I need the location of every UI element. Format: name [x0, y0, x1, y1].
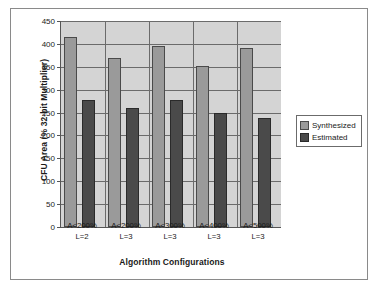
category-label-line1: A<200%: [67, 221, 97, 230]
bar-estimated[interactable]: [258, 118, 271, 227]
x-axis-category-label: A<400%L=3: [190, 220, 238, 242]
bar-estimated[interactable]: [82, 100, 95, 227]
category-label-line1: A<300%: [155, 221, 185, 230]
category-label-line1: A<200%: [111, 221, 141, 230]
y-axis-tick-label: 50: [46, 200, 55, 209]
x-axis-category-label: A<200%L=3: [102, 220, 150, 242]
bar-estimated[interactable]: [126, 108, 139, 227]
legend-item-estimated[interactable]: Estimated: [300, 131, 356, 143]
chart-figure: CFU Area (% 32-bit Multiplier) 450400350…: [10, 8, 368, 280]
category-label-line1: A<400%: [199, 221, 229, 230]
y-axis-tick-label: 450: [42, 17, 55, 26]
y-axis-tick-label: 250: [42, 108, 55, 117]
legend-swatch-icon: [300, 133, 309, 142]
bar-synthesized[interactable]: [240, 48, 253, 227]
y-axis-tick-label: 100: [42, 177, 55, 186]
category-label-line1: A<500%: [243, 221, 273, 230]
y-axis-tick-label: 400: [42, 39, 55, 48]
bar-synthesized[interactable]: [64, 37, 77, 227]
bar-synthesized[interactable]: [152, 46, 165, 227]
legend-swatch-icon: [300, 121, 309, 130]
bar-group: [149, 21, 193, 227]
y-axis-tick-label: 300: [42, 85, 55, 94]
y-axis-title: CFU Area (% 32-bit Multiplier): [39, 25, 49, 215]
bar-group: [105, 21, 149, 227]
x-axis-category-label: A<300%L=3: [146, 220, 194, 242]
category-label-line2: L=3: [146, 231, 194, 242]
bars-layer: [61, 21, 281, 227]
category-label-line2: L=3: [234, 231, 282, 242]
bar-synthesized[interactable]: [196, 66, 209, 227]
legend-label: Synthesized: [312, 121, 356, 130]
x-axis-title: Algorithm Configurations: [47, 257, 297, 267]
bar-estimated[interactable]: [214, 113, 227, 227]
y-axis-tick-label: 150: [42, 154, 55, 163]
legend-item-synthesized[interactable]: Synthesized: [300, 119, 356, 131]
x-axis-category-label: A<200%L=2: [58, 220, 106, 242]
category-label-line2: L=3: [190, 231, 238, 242]
bar-group: [193, 21, 237, 227]
bar-group: [61, 21, 105, 227]
y-axis-tick-label: 0: [51, 223, 55, 232]
y-axis-tick-label: 350: [42, 62, 55, 71]
bar-group: [237, 21, 281, 227]
y-axis-tick-label: 200: [42, 131, 55, 140]
legend-label: Estimated: [312, 133, 348, 142]
plot-area: 450400350300250200150100500: [60, 21, 281, 228]
category-label-line2: L=3: [102, 231, 150, 242]
chart-legend: SynthesizedEstimated: [296, 115, 362, 147]
x-axis-category-label: A<500%L=3: [234, 220, 282, 242]
bar-synthesized[interactable]: [108, 58, 121, 227]
category-label-line2: L=2: [58, 231, 106, 242]
bar-estimated[interactable]: [170, 100, 183, 227]
